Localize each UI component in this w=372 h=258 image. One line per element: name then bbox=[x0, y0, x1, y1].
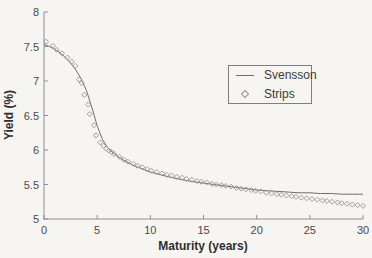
y-tick-label: 7.5 bbox=[24, 41, 39, 53]
strips-point bbox=[299, 195, 304, 200]
x-tick-label: 25 bbox=[304, 224, 316, 236]
strips-point bbox=[361, 203, 366, 208]
x-tick-label: 5 bbox=[94, 224, 100, 236]
legend-label-svensson: Svensson bbox=[264, 68, 317, 82]
strips-point bbox=[274, 192, 279, 197]
legend-label-strips: Strips bbox=[264, 87, 295, 101]
x-axis-title: Maturity (years) bbox=[158, 239, 247, 253]
strips-point bbox=[253, 188, 258, 193]
strips-point bbox=[320, 198, 325, 203]
strips-point bbox=[330, 199, 335, 204]
y-axis-title: Yield (%) bbox=[2, 90, 16, 140]
strips-point bbox=[294, 194, 299, 199]
y-tick-label: 5 bbox=[33, 213, 39, 225]
svensson-line bbox=[44, 44, 363, 194]
strips-point bbox=[94, 133, 99, 138]
strips-point bbox=[289, 194, 294, 199]
legend-item-svensson: Svensson bbox=[235, 68, 311, 82]
legend-item-strips: Strips bbox=[235, 87, 311, 101]
y-tick-label: 7 bbox=[33, 75, 39, 87]
strips-point bbox=[279, 192, 284, 197]
strips-point bbox=[339, 201, 344, 206]
strips-point bbox=[350, 202, 355, 207]
strips-point bbox=[335, 200, 340, 205]
strips-point bbox=[284, 193, 289, 198]
strips-point bbox=[304, 196, 309, 201]
strips-point bbox=[91, 123, 96, 128]
x-tick-label: 15 bbox=[197, 224, 209, 236]
strips-point bbox=[315, 197, 320, 202]
strips-point bbox=[355, 203, 360, 208]
strips-point bbox=[98, 140, 103, 145]
y-tick-label: 6 bbox=[33, 144, 39, 156]
diamond-marker-icon bbox=[235, 91, 255, 97]
yield-curve-figure: 05101520253055.566.577.58 Yield (%) Matu… bbox=[0, 0, 372, 258]
strips-point bbox=[258, 189, 263, 194]
strips-point bbox=[309, 196, 314, 201]
legend: Svensson Strips bbox=[228, 65, 312, 104]
strips-point bbox=[324, 199, 329, 204]
chart-canvas: 05101520253055.566.577.58 bbox=[0, 0, 372, 258]
strips-point bbox=[87, 112, 92, 117]
y-tick-label: 8 bbox=[33, 6, 39, 18]
x-tick-label: 20 bbox=[251, 224, 263, 236]
x-tick-label: 30 bbox=[357, 224, 369, 236]
y-tick-label: 5.5 bbox=[24, 179, 39, 191]
strips-point bbox=[345, 201, 350, 206]
x-tick-label: 0 bbox=[41, 224, 47, 236]
y-tick-label: 6.5 bbox=[24, 110, 39, 122]
strips-point bbox=[269, 191, 274, 196]
x-tick-label: 10 bbox=[144, 224, 156, 236]
strips-point bbox=[82, 92, 87, 97]
line-swatch-icon bbox=[235, 75, 255, 76]
